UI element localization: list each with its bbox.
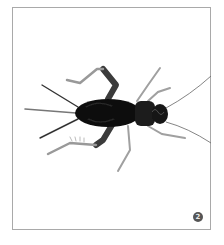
figure-number-badge: 2: [193, 212, 203, 222]
cricket-photo: [0, 0, 224, 245]
cricket-body: [75, 99, 168, 127]
antennae: [166, 76, 211, 143]
cerci: [25, 85, 78, 138]
hind-leg-upper: [67, 69, 116, 99]
